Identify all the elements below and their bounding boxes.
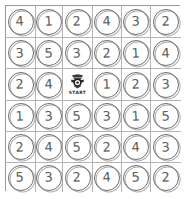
token-number: 3 (44, 109, 53, 122)
board-cell-r4-c6[interactable]: 5 (151, 101, 181, 132)
board-cell-r6-c4[interactable]: 4 (93, 163, 122, 192)
board-cell-r6-c2[interactable]: 3 (36, 163, 63, 192)
board-cell-r2-c4[interactable]: 2 (93, 38, 122, 69)
number-token[interactable]: 2 (65, 9, 91, 35)
board-cell-r5-c5[interactable]: 4 (122, 132, 151, 163)
token-number: 2 (16, 77, 25, 90)
token-number: 3 (44, 170, 53, 183)
board-cell-r6-c3[interactable]: 2 (63, 163, 93, 192)
board-cell-r1-c3[interactable]: 2 (63, 6, 93, 38)
number-token[interactable]: 4 (36, 72, 62, 98)
number-token[interactable]: 3 (94, 103, 120, 129)
token-number: 2 (73, 170, 82, 183)
board-cell-r5-c2[interactable]: 4 (36, 132, 63, 163)
number-token[interactable]: 2 (123, 72, 149, 98)
board-cell-r3-c1[interactable]: 2 (6, 69, 36, 101)
token-number: 1 (44, 14, 53, 27)
token-number: 3 (102, 109, 111, 122)
number-token[interactable]: 5 (36, 40, 62, 66)
number-token[interactable]: 2 (153, 165, 179, 191)
board-cell-r1-c1[interactable]: 4 (6, 6, 36, 38)
board-cell-r3-c2[interactable]: 4 (36, 69, 63, 101)
board-cell-r5-c6[interactable]: 3 (151, 132, 181, 163)
number-token[interactable]: 1 (123, 103, 149, 129)
number-token[interactable]: 2 (8, 72, 34, 98)
token-number: 3 (131, 14, 140, 27)
token-number: 2 (16, 140, 25, 153)
token-number: 4 (131, 140, 140, 153)
board-cell-r3-c5[interactable]: 2 (122, 69, 151, 101)
board-cell-r2-c3[interactable]: 3 (63, 38, 93, 69)
board-cell-r1-c4[interactable]: 4 (93, 6, 122, 38)
number-token[interactable]: 3 (123, 9, 149, 35)
number-token[interactable]: 3 (153, 72, 179, 98)
token-number: 2 (102, 140, 111, 153)
token-number: 5 (16, 170, 25, 183)
board-cell-r1-c2[interactable]: 1 (36, 6, 63, 38)
board-cell-r2-c2[interactable]: 5 (36, 38, 63, 69)
number-token[interactable]: 4 (36, 134, 62, 160)
board-cell-r6-c6[interactable]: 2 (151, 163, 181, 192)
number-token[interactable]: 5 (123, 165, 149, 191)
number-token[interactable]: 2 (65, 165, 91, 191)
token-number: 5 (161, 109, 170, 122)
number-token[interactable]: 3 (36, 103, 62, 129)
number-token[interactable]: 2 (94, 134, 120, 160)
board-cell-r4-c2[interactable]: 3 (36, 101, 63, 132)
token-number: 3 (73, 46, 82, 59)
board-cell-r6-c5[interactable]: 5 (122, 163, 151, 192)
number-token[interactable]: 4 (94, 9, 120, 35)
game-board-grid: 41243235321424START123135315245243532452 (5, 5, 180, 191)
board-cell-r3-c4[interactable]: 1 (93, 69, 122, 101)
board-cell-r2-c5[interactable]: 1 (122, 38, 151, 69)
number-token[interactable]: 2 (94, 40, 120, 66)
number-token[interactable]: 3 (36, 165, 62, 191)
board-cell-r2-c6[interactable]: 4 (151, 38, 181, 69)
token-number: 2 (73, 14, 82, 27)
number-token[interactable]: 5 (65, 103, 91, 129)
board-cell-r4-c1[interactable]: 1 (6, 101, 36, 132)
token-number: 1 (102, 77, 111, 90)
token-number: 1 (131, 109, 140, 122)
token-number: 2 (102, 46, 111, 59)
number-token[interactable]: 4 (94, 165, 120, 191)
board-cell-r3-c6[interactable]: 3 (151, 69, 181, 101)
board-cell-r5-c3[interactable]: 5 (63, 132, 93, 163)
number-token[interactable]: 1 (123, 40, 149, 66)
number-token[interactable]: 1 (36, 9, 62, 35)
number-token[interactable]: 1 (94, 72, 120, 98)
board-cell-r4-c3[interactable]: 5 (63, 101, 93, 132)
token-number: 4 (16, 14, 25, 27)
board-cell-r2-c1[interactable]: 3 (6, 38, 36, 69)
start-label: START (69, 91, 86, 95)
board-cell-r5-c1[interactable]: 2 (6, 132, 36, 163)
number-token[interactable]: 2 (8, 134, 34, 160)
number-token[interactable]: 5 (65, 134, 91, 160)
board-cell-r5-c4[interactable]: 2 (93, 132, 122, 163)
number-token[interactable]: 3 (153, 134, 179, 160)
token-number: 1 (16, 109, 25, 122)
number-token[interactable]: 3 (65, 40, 91, 66)
board-cell-r1-c6[interactable]: 2 (151, 6, 181, 38)
number-token[interactable]: 4 (153, 40, 179, 66)
board-cell-r4-c5[interactable]: 1 (122, 101, 151, 132)
token-number: 4 (44, 140, 53, 153)
token-number: 2 (161, 170, 170, 183)
number-token[interactable]: 4 (8, 9, 34, 35)
number-token[interactable]: 4 (123, 134, 149, 160)
board-cell-r1-c5[interactable]: 3 (122, 6, 151, 38)
board-cell-r4-c4[interactable]: 3 (93, 101, 122, 132)
number-token[interactable]: 2 (153, 9, 179, 35)
token-number: 5 (131, 170, 140, 183)
number-token[interactable]: 5 (153, 103, 179, 129)
token-number: 5 (73, 140, 82, 153)
crest-icon (69, 73, 86, 90)
token-number: 5 (44, 46, 53, 59)
token-number: 4 (44, 77, 53, 90)
number-token[interactable]: 3 (8, 40, 34, 66)
token-number: 3 (16, 46, 25, 59)
number-token[interactable]: 5 (8, 165, 34, 191)
board-cell-r6-c1[interactable]: 5 (6, 163, 36, 192)
board-cell-r3-c3[interactable]: START (63, 69, 93, 101)
number-token[interactable]: 1 (8, 103, 34, 129)
